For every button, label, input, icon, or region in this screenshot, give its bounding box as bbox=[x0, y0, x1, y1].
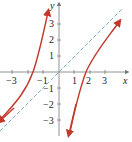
asymptote-line bbox=[0, 9, 122, 131]
curve-left-tail bbox=[0, 108, 14, 121]
y-tick-label: 3 bbox=[49, 18, 54, 29]
y-axis-label: y bbox=[49, 0, 55, 11]
x-tick-label: 1 bbox=[72, 75, 77, 86]
x-tick-label: −3 bbox=[6, 75, 17, 86]
curve-right-branch bbox=[70, 22, 119, 132]
x-tick-label: 2 bbox=[86, 75, 91, 86]
y-tick-label: −2 bbox=[43, 99, 54, 110]
y-tick-label: −3 bbox=[43, 115, 54, 126]
y-tick-label: −1 bbox=[43, 83, 54, 94]
curve-left-branch bbox=[0, 12, 48, 120]
y-tick-label: 2 bbox=[49, 34, 54, 45]
function-graph: −3 −1 1 2 3 x 3 2 1 −1 −2 −3 y bbox=[0, 0, 132, 142]
y-tick-label: 1 bbox=[49, 50, 54, 61]
plot-area: −3 −1 1 2 3 x 3 2 1 −1 −2 −3 y bbox=[0, 0, 132, 142]
curve-right-tail bbox=[69, 104, 76, 134]
x-tick-label: 3 bbox=[102, 75, 107, 86]
x-axis-label: x bbox=[122, 75, 128, 86]
